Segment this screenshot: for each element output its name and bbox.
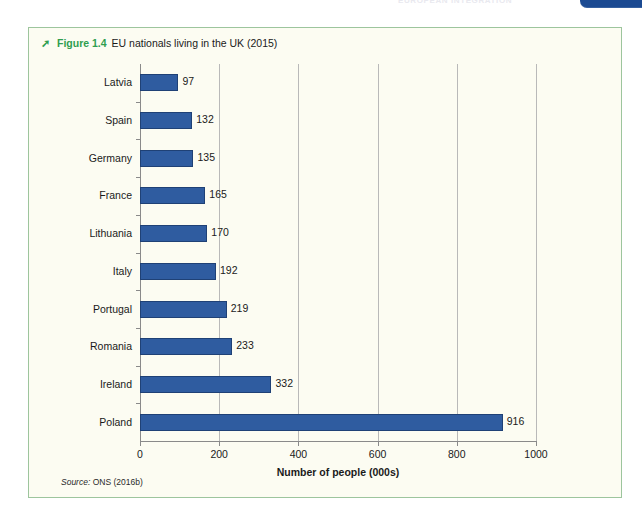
- bar-row: 916Poland: [140, 414, 536, 431]
- x-tick: [378, 442, 379, 446]
- category-label: Germany: [32, 152, 132, 164]
- bar-row: 192Italy: [140, 263, 536, 280]
- x-tick-label: 1000: [524, 448, 547, 460]
- x-tick-label: 600: [369, 448, 387, 460]
- x-tick-label: 800: [448, 448, 466, 460]
- bar-value-label: 135: [197, 151, 215, 163]
- bar-row: 132Spain: [140, 112, 536, 129]
- bar-value-label: 219: [231, 302, 249, 314]
- arrow-right-icon: ➚: [41, 38, 50, 49]
- bar: [140, 338, 232, 355]
- y-tick: [136, 139, 140, 140]
- category-label: Poland: [32, 416, 132, 428]
- category-label: Romania: [32, 340, 132, 352]
- y-tick: [136, 366, 140, 367]
- x-tick: [140, 442, 141, 446]
- figure-caption: ➚ Figure 1.4 EU nationals living in the …: [41, 37, 277, 51]
- figure-number: Figure 1.4: [57, 37, 107, 49]
- bar-value-label: 332: [275, 377, 293, 389]
- bar-row: 219Portugal: [140, 301, 536, 318]
- bar: [140, 225, 207, 242]
- x-tick: [298, 442, 299, 446]
- chapter-tab: 1: [580, 0, 642, 8]
- bar-row: 233Romania: [140, 338, 536, 355]
- bar: [140, 112, 192, 129]
- bar: [140, 301, 227, 318]
- chart-plot-area: 97Latvia132Spain135Germany165France170Li…: [140, 64, 536, 441]
- bar-value-label: 192: [220, 264, 238, 276]
- figure-title: EU nationals living in the UK (2015): [112, 37, 278, 49]
- x-tick: [219, 442, 220, 446]
- x-tick: [536, 442, 537, 446]
- category-label: France: [32, 189, 132, 201]
- bar-row: 135Germany: [140, 150, 536, 167]
- x-tick-label: 0: [137, 448, 143, 460]
- figure-box: ➚ Figure 1.4 EU nationals living in the …: [28, 27, 622, 498]
- bar: [140, 187, 205, 204]
- bar-value-label: 132: [196, 113, 214, 125]
- bar: [140, 414, 503, 431]
- y-tick: [136, 290, 140, 291]
- bar: [140, 263, 216, 280]
- page-header-strip: EUROPEAN INTEGRATION 1: [0, 0, 642, 18]
- figure-source: Source: ONS (2016b): [61, 477, 143, 487]
- bar-value-label: 916: [507, 415, 525, 427]
- category-label: Italy: [32, 265, 132, 277]
- bar: [140, 150, 193, 167]
- bar-value-label: 233: [236, 339, 254, 351]
- y-tick: [136, 177, 140, 178]
- bar-row: 170Lithuania: [140, 225, 536, 242]
- y-tick: [136, 102, 140, 103]
- y-tick: [136, 403, 140, 404]
- x-tick-label: 400: [290, 448, 308, 460]
- x-axis-title: Number of people (000s): [140, 466, 536, 478]
- bar: [140, 74, 178, 91]
- source-label: Source:: [61, 477, 90, 487]
- bar-value-label: 170: [211, 226, 229, 238]
- x-tick: [457, 442, 458, 446]
- x-axis-line: [140, 441, 537, 442]
- y-tick: [136, 328, 140, 329]
- source-text: ONS (2016b): [93, 477, 143, 487]
- bar: [140, 376, 271, 393]
- bar-row: 97Latvia: [140, 74, 536, 91]
- bar-row: 332Ireland: [140, 376, 536, 393]
- bar-value-label: 165: [209, 188, 227, 200]
- y-tick: [136, 215, 140, 216]
- category-label: Lithuania: [32, 227, 132, 239]
- bar-row: 165France: [140, 187, 536, 204]
- x-tick-label: 200: [210, 448, 228, 460]
- running-head: EUROPEAN INTEGRATION: [398, 0, 512, 5]
- category-label: Spain: [32, 114, 132, 126]
- bar-value-label: 97: [182, 75, 194, 87]
- y-tick: [136, 253, 140, 254]
- category-label: Ireland: [32, 378, 132, 390]
- gridline: [536, 64, 537, 441]
- category-label: Portugal: [32, 303, 132, 315]
- category-label: Latvia: [32, 76, 132, 88]
